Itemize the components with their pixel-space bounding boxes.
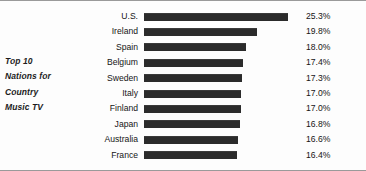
- value-label: 17.4%: [306, 55, 330, 70]
- bar-row: Spain 18.0%: [0, 40, 366, 55]
- bar: [144, 74, 242, 82]
- bar-track: [144, 151, 237, 159]
- bar-row: U.S. 25.3%: [0, 9, 366, 24]
- bar-track: [144, 136, 238, 144]
- category-label: Japan: [115, 117, 138, 132]
- bar-row: France 16.4%: [0, 148, 366, 163]
- category-label: Spain: [116, 40, 138, 55]
- bar-track: [144, 105, 241, 113]
- value-label: 17.0%: [306, 101, 330, 116]
- bar: [144, 105, 241, 113]
- bar-row: Ireland 19.8%: [0, 24, 366, 39]
- bar: [144, 120, 240, 128]
- value-label: 18.0%: [306, 40, 330, 55]
- bar: [144, 90, 241, 98]
- bar-track: [144, 43, 246, 51]
- bar-row: Belgium 17.4%: [0, 55, 366, 70]
- bar-row: Australia 16.6%: [0, 132, 366, 147]
- category-label: U.S.: [121, 9, 138, 24]
- bar-track: [144, 120, 240, 128]
- category-label: Ireland: [112, 24, 138, 39]
- value-label: 16.6%: [306, 132, 330, 147]
- value-label: 16.8%: [306, 117, 330, 132]
- bar: [144, 28, 257, 36]
- bar-row: Sweden 17.3%: [0, 71, 366, 86]
- bar: [144, 136, 238, 144]
- bar-track: [144, 28, 257, 36]
- bar-row: Finland 17.0%: [0, 101, 366, 116]
- bar-track: [144, 13, 288, 21]
- value-label: 25.3%: [306, 9, 330, 24]
- category-label: Sweden: [107, 71, 138, 86]
- bar-row: Italy 17.0%: [0, 86, 366, 101]
- value-label: 19.8%: [306, 24, 330, 39]
- category-label: France: [111, 148, 138, 163]
- bar: [144, 151, 237, 159]
- category-label: Australia: [105, 132, 138, 147]
- value-label: 17.3%: [306, 71, 330, 86]
- bar-track: [144, 90, 241, 98]
- bar-track: [144, 59, 243, 67]
- bar: [144, 43, 246, 51]
- value-label: 16.4%: [306, 148, 330, 163]
- value-label: 17.0%: [306, 86, 330, 101]
- chart-card: Top 10 Nations for Country Music TV U.S.…: [0, 0, 366, 171]
- category-label: Finland: [110, 101, 138, 116]
- bar: [144, 13, 288, 21]
- bar-row: Japan 16.8%: [0, 117, 366, 132]
- bar-track: [144, 74, 242, 82]
- category-label: Italy: [122, 86, 138, 101]
- category-label: Belgium: [107, 55, 138, 70]
- bar: [144, 59, 243, 67]
- bar-chart-rows: U.S. 25.3% Ireland 19.8% Spain 18.0% Bel…: [0, 9, 366, 163]
